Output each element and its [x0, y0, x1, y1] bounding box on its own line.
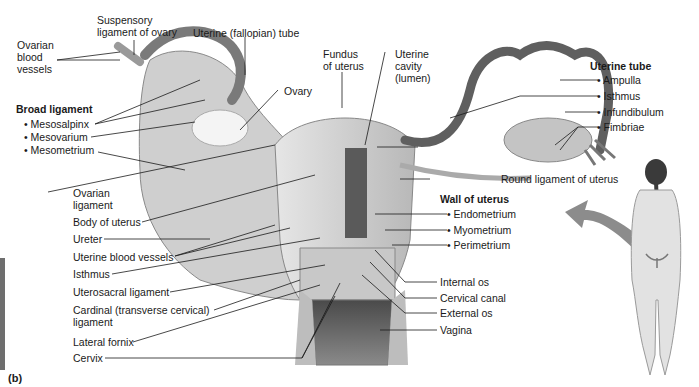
label-round-ligament: Round ligament of uterus [501, 173, 618, 185]
label-line: Cardinal (transverse cervical) [73, 304, 210, 316]
uterus [275, 118, 415, 365]
label-suspensory-ligament: Suspensory ligament of ovary [97, 14, 177, 38]
body-silhouette [631, 159, 680, 375]
broad-ligament-item: • Mesovarium [24, 131, 88, 143]
label-uterosacral-ligament: Uterosacral ligament [73, 286, 169, 298]
uterine-tube-item: • Infundibulum [597, 106, 664, 118]
label-ovary: Ovary [284, 85, 312, 97]
label-line: Suspensory [97, 14, 177, 26]
label-ovarian-ligament: Ovarian ligament [73, 187, 113, 211]
label-line: Uterine [395, 48, 431, 60]
page-edge-bar [0, 258, 5, 370]
label-body-of-uterus: Body of uterus [73, 216, 141, 228]
label-isthmus: Isthmus [73, 268, 110, 280]
label-line: cavity [395, 60, 431, 72]
label-ureter: Ureter [73, 233, 102, 245]
label-line: Ovarian [73, 187, 113, 199]
uterine-tube-heading: Uterine tube [590, 60, 651, 72]
wall-of-uterus-item: • Endometrium [447, 208, 516, 220]
label-line: vessels [17, 63, 54, 75]
uterine-tube-item: • Ampulla [597, 74, 641, 86]
label-line: ligament [73, 199, 113, 211]
label-line: ligament of ovary [97, 26, 177, 38]
uterine-tube-item: • Fimbriae [597, 121, 644, 133]
wall-of-uterus-heading: Wall of uterus [440, 193, 509, 205]
label-fundus: Fundus of uterus [323, 48, 364, 72]
label-line: ligament [73, 316, 210, 328]
label-external-os: External os [440, 307, 493, 319]
broad-ligament-item: • Mesosalpinx [24, 118, 89, 130]
label-ovarian-blood-vessels: Ovarian blood vessels [17, 39, 54, 75]
label-line: Fundus [323, 48, 364, 60]
label-uterine-tube: Uterine (fallopian) tube [193, 27, 299, 39]
label-cervix: Cervix [73, 352, 103, 364]
label-line: (lumen) [395, 72, 431, 84]
broad-ligament-item: • Mesometrium [24, 144, 94, 156]
label-cervical-canal: Cervical canal [440, 292, 506, 304]
label-uterine-cavity: Uterine cavity (lumen) [395, 48, 431, 84]
label-vagina: Vagina [440, 324, 472, 336]
wall-of-uterus-item: • Myometrium [447, 224, 511, 236]
label-line: blood [17, 51, 54, 63]
label-internal-os: Internal os [440, 276, 489, 288]
label-uterine-blood-vessels: Uterine blood vessels [73, 251, 173, 263]
broad-ligament-heading: Broad ligament [16, 103, 92, 115]
label-line: of uterus [323, 60, 364, 72]
label-line: Ovarian [17, 39, 54, 51]
wall-of-uterus-item: • Perimetrium [447, 239, 510, 251]
label-cardinal-ligament: Cardinal (transverse cervical) ligament [73, 304, 210, 328]
uterine-tube-item: • Isthmus [597, 90, 640, 102]
label-lateral-fornix: Lateral fornix [73, 336, 134, 348]
panel-label: (b) [8, 372, 22, 384]
